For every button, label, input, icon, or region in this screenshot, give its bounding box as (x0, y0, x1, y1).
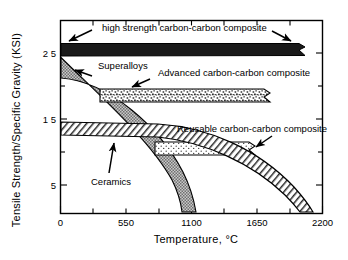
ytick-label-25: 2 5 (43, 48, 56, 59)
xtick-label-1100: 1100 (181, 217, 201, 228)
xtick-label-2200: 2200 (312, 217, 333, 228)
xtick-label-550: 550 (118, 217, 134, 228)
y-axis-title: Tensile Strength/Specific Gravity (KSI) (10, 33, 22, 227)
x-axis-title: Temperature, °C (154, 233, 239, 245)
label-reusable: Reusable carbon-carbon composite (177, 123, 327, 134)
label-advanced: Advanced carbon-carbon composite (158, 67, 310, 78)
ytick-label-5: 5 (51, 180, 56, 191)
label-high-strength: high strength carbon-carbon composite (102, 22, 267, 33)
label-superalloys: Superalloys (98, 60, 148, 71)
label-ceramics: Ceramics (91, 176, 131, 187)
band-advanced-carbon-carbon (100, 89, 270, 102)
ytick-label-15: 1 5 (43, 114, 56, 125)
xtick-label-0: 0 (58, 217, 63, 228)
band-high-strength-carbon-carbon (61, 44, 305, 57)
xtick-label-1650: 1650 (246, 217, 267, 228)
chart-figure: high strength carbon-carbon composite Su… (0, 0, 348, 260)
chart-canvas: high strength carbon-carbon composite Su… (0, 0, 348, 260)
